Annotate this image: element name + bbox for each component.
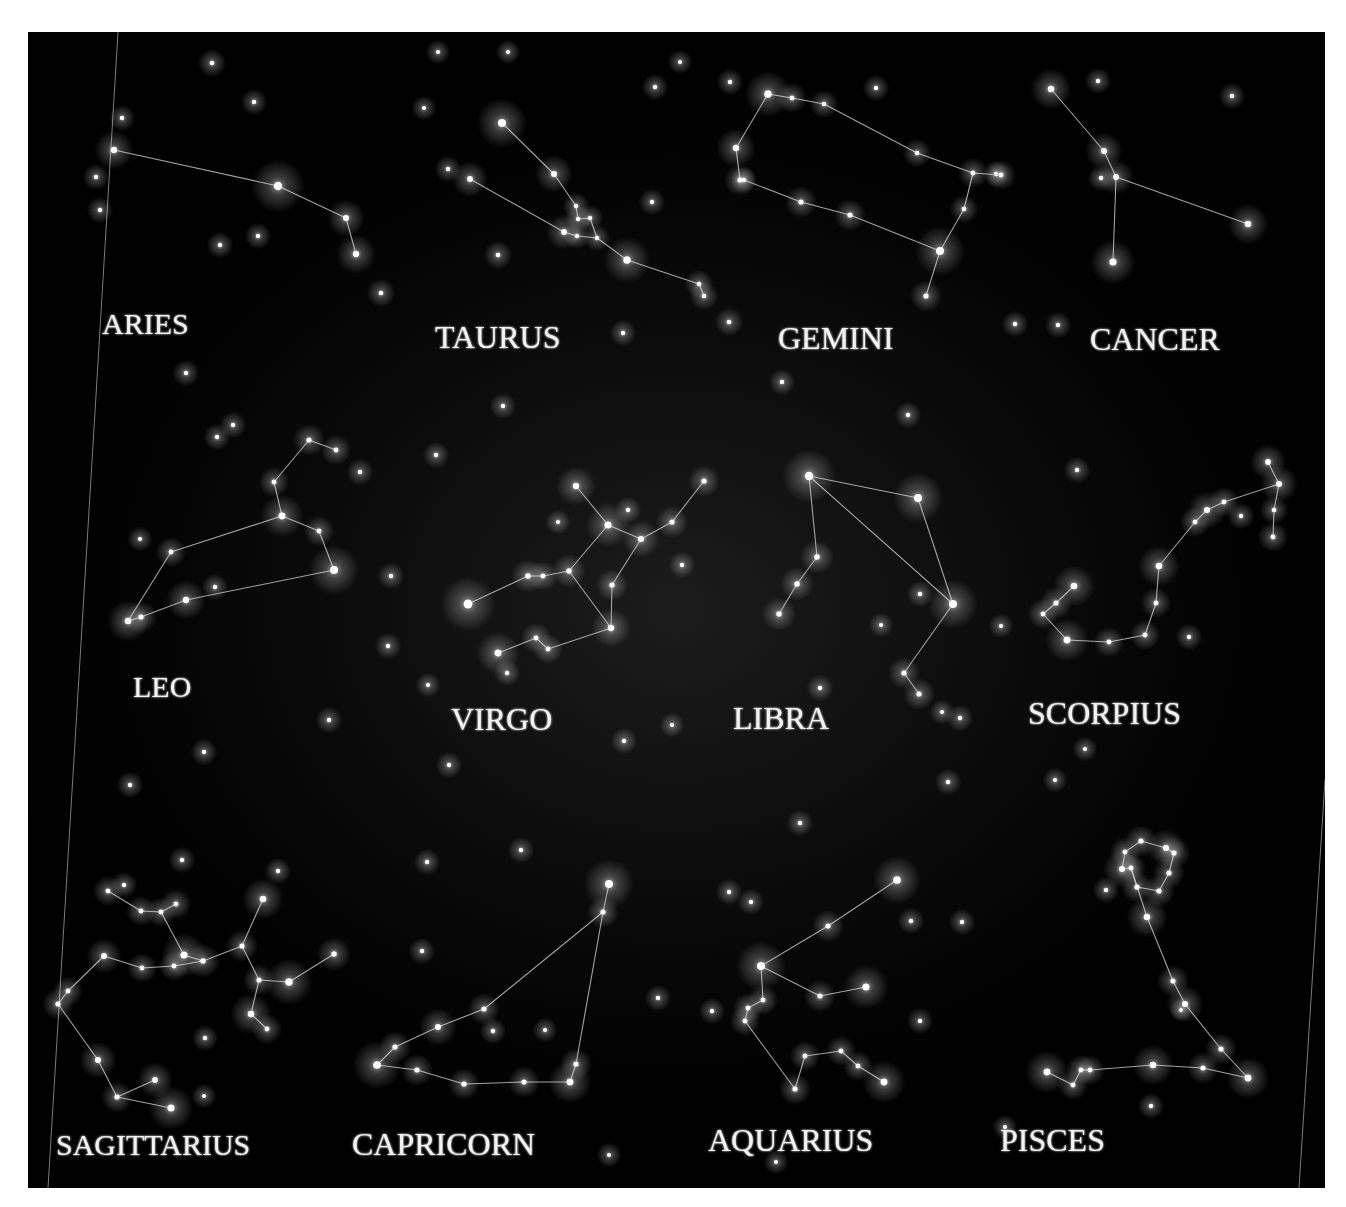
- star-icon: [716, 128, 755, 167]
- star-icon: [639, 189, 666, 216]
- star-icon: [440, 576, 495, 631]
- star-icon: [367, 279, 395, 307]
- star-icon: [508, 837, 535, 864]
- star-icon: [863, 75, 890, 102]
- star-icon: [769, 369, 796, 396]
- constellation-leo: LEO: [108, 424, 360, 703]
- star-icon: [1219, 83, 1246, 110]
- star-icon: [101, 1081, 133, 1113]
- constellation-label: LIBRA: [733, 700, 829, 736]
- star-icon: [416, 673, 441, 698]
- star-icon: [777, 83, 807, 113]
- star-icon: [414, 849, 441, 876]
- star-icon: [989, 614, 1014, 639]
- star-icon: [668, 50, 693, 75]
- star-icon: [186, 944, 220, 978]
- star-icon: [597, 1143, 622, 1168]
- constellation-label: TAURUS: [435, 319, 560, 355]
- star-icon: [903, 678, 935, 710]
- constellation-label: CANCER: [1090, 321, 1220, 357]
- star-icon: [910, 280, 942, 312]
- star-icon: [731, 167, 758, 194]
- star-icon: [622, 520, 659, 557]
- star-icon: [378, 563, 405, 590]
- star-icon: [869, 613, 894, 638]
- star-icon: [127, 953, 157, 983]
- star-icon: [496, 40, 521, 65]
- star-icon: [669, 552, 696, 579]
- star-icon: [533, 1018, 558, 1043]
- star-icon: [893, 473, 943, 523]
- star-icon: [42, 988, 74, 1020]
- star-icon: [800, 540, 834, 574]
- star-icon: [192, 1084, 217, 1109]
- constellation-label: LEO: [133, 670, 191, 703]
- constellation-libra: LIBRA: [733, 449, 978, 736]
- constellation-virgo: VIRGO: [440, 465, 720, 737]
- star-icon: [419, 1008, 456, 1045]
- star-icon: [690, 282, 718, 310]
- star-icon: [1176, 624, 1203, 651]
- star-icon: [715, 308, 743, 336]
- star-icon: [730, 1006, 760, 1036]
- star-icon: [1073, 737, 1098, 762]
- star-icon: [834, 199, 866, 231]
- constellation-lines: [114, 150, 356, 254]
- star-icon: [1064, 457, 1091, 484]
- constellation-label: SCORPIUS: [1028, 695, 1181, 731]
- star-icon: [347, 459, 374, 486]
- star-icon: [336, 234, 375, 273]
- star-icon: [309, 545, 359, 595]
- star-icon: [844, 965, 889, 1010]
- star-icon: [1258, 522, 1288, 552]
- star-icon: [261, 495, 304, 538]
- star-icon: [596, 569, 628, 601]
- star-icon: [304, 516, 334, 546]
- constellation-lines: [736, 94, 1001, 296]
- star-icon: [159, 951, 189, 981]
- star-icon: [556, 466, 595, 505]
- star-icon: [1260, 496, 1288, 524]
- star-icon: [863, 1061, 906, 1104]
- star-icon: [412, 96, 437, 121]
- star-icon: [1091, 240, 1136, 285]
- star-icon: [699, 998, 726, 1025]
- star-icon: [1187, 1052, 1219, 1084]
- star-icon: [317, 937, 351, 971]
- star-icon: [1141, 588, 1171, 618]
- star-icon: [252, 1014, 282, 1044]
- star-icon: [1130, 620, 1160, 650]
- star-icon: [935, 769, 962, 796]
- star-icon: [490, 393, 517, 420]
- star-icon: [1031, 69, 1072, 110]
- constellation-gemini: GEMINI: [716, 71, 1016, 356]
- star-icon: [128, 527, 153, 552]
- star-icon: [477, 98, 527, 148]
- star-icon: [604, 237, 650, 283]
- constellation-scorpius: SCORPIUS: [1028, 444, 1298, 731]
- star-icon: [807, 675, 834, 702]
- star-icon: [642, 74, 669, 101]
- star-icon: [86, 938, 122, 974]
- constellation-label: VIRGO: [451, 701, 552, 737]
- star-icon: [87, 197, 114, 224]
- star-icon: [656, 506, 688, 538]
- star-icon: [782, 449, 836, 503]
- star-icon: [895, 402, 922, 429]
- star-icon: [125, 601, 157, 633]
- star-icon: [736, 941, 786, 991]
- star-icon: [1002, 311, 1029, 338]
- star-icon: [779, 1073, 811, 1105]
- star-icon: [1166, 985, 1203, 1022]
- star-icon: [243, 879, 284, 920]
- star-icon: [552, 554, 586, 588]
- star-icon: [873, 856, 921, 904]
- star-icon: [293, 424, 325, 456]
- star-icon: [587, 896, 619, 928]
- star-icon: [812, 910, 844, 942]
- star-icon: [484, 241, 512, 269]
- star-icon: [266, 959, 312, 1005]
- star-icon: [928, 579, 978, 629]
- star-icon: [156, 537, 186, 567]
- star-icon: [738, 889, 765, 916]
